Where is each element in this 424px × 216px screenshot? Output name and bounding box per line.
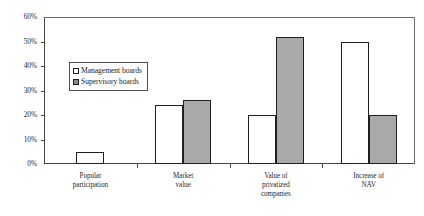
bar-supervisory-boards (276, 37, 304, 164)
y-axis-tick-label: 10% (24, 136, 37, 143)
x-axis-category-label: Popularparticipation (73, 172, 108, 190)
legend-item-label: Management boards (81, 67, 142, 75)
bar-chart: 0%10%20%30%40%50%60% Popularparticipatio… (0, 0, 424, 216)
x-axis-category-label-line: companies (261, 190, 291, 199)
x-axis-tick-mark (230, 164, 231, 168)
bar-management-boards (155, 105, 183, 164)
y-axis-tick-label: 60% (24, 13, 37, 20)
bar-management-boards (341, 42, 369, 165)
y-axis-tick-label: 40% (24, 62, 37, 69)
x-axis-category-label: Marketvalue (173, 172, 193, 190)
y-axis-tick-mark (41, 42, 45, 43)
y-axis-tick-label: 30% (24, 87, 37, 94)
bar-management-boards (248, 115, 276, 164)
x-axis-category-label-line: NAV (353, 181, 384, 190)
x-axis-category-label-line: participation (73, 181, 108, 190)
y-axis-tick-label: 20% (24, 111, 37, 118)
legend-item: Management boards (73, 65, 142, 76)
y-axis-tick-mark (41, 115, 45, 116)
bars-layer (45, 18, 414, 164)
x-axis-tick-mark (322, 164, 323, 168)
x-axis-category-label: Value ofprivatizedcompanies (261, 172, 291, 200)
y-axis: 0%10%20%30%40%50%60% (0, 0, 44, 216)
legend-item-label: Supervisory boards (81, 78, 139, 86)
filled-square-icon (73, 79, 79, 85)
x-axis-category-label-line: Value of (261, 172, 291, 181)
bar-supervisory-boards (369, 115, 397, 164)
y-axis-tick-mark (41, 91, 45, 92)
x-axis-tick-mark (137, 164, 138, 168)
x-axis-category-label: Increase ofNAV (353, 172, 384, 190)
legend-item: Supervisory boards (73, 76, 142, 87)
y-axis-tick-mark (41, 66, 45, 67)
bar-management-boards (76, 152, 104, 164)
y-axis-tick-label: 50% (24, 38, 37, 45)
x-axis-category-label-line: Increase of (353, 172, 384, 181)
y-axis-tick-label: 0% (27, 160, 37, 167)
x-axis-category-label-line: Popular (73, 172, 108, 181)
x-axis-category-label-line: Market (173, 172, 193, 181)
chart-legend: Management boardsSupervisory boards (69, 62, 148, 91)
hollow-square-icon (73, 68, 79, 74)
y-axis-tick-mark (41, 140, 45, 141)
x-axis-category-label-line: privatized (261, 181, 291, 190)
bar-supervisory-boards (183, 100, 211, 164)
x-axis-category-label-line: value (173, 181, 193, 190)
